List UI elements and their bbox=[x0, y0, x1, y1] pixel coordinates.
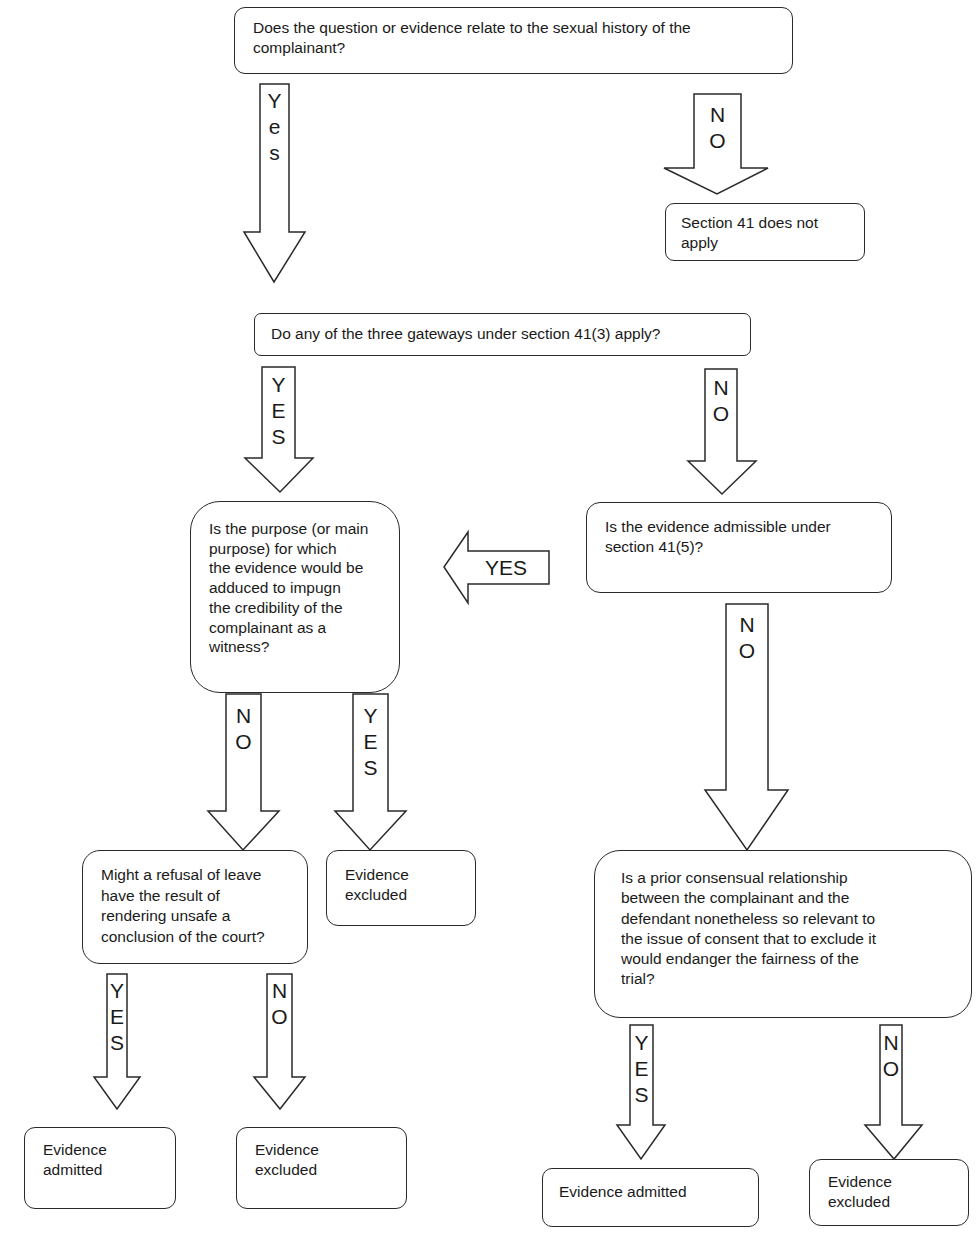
node-evidence-admitted-refusal: Evidence admitted bbox=[24, 1127, 176, 1209]
arrow-label-q5-no: N O bbox=[266, 978, 293, 1030]
node-evidence-excluded-refusal: Evidence excluded bbox=[236, 1127, 407, 1209]
arrow-label-q1-no: N O bbox=[694, 102, 741, 154]
node-text: Evidence excluded bbox=[345, 865, 457, 905]
node-text: Evidence admitted bbox=[559, 1182, 742, 1202]
node-text: Does the question or evidence relate to … bbox=[253, 18, 774, 58]
node-text: Evidence admitted bbox=[43, 1140, 157, 1180]
arrow-label-q3-no: N O bbox=[226, 703, 261, 755]
arrow-label-q6-no: N O bbox=[879, 1030, 903, 1082]
arrow-label-q3-yes: Y E S bbox=[353, 703, 388, 781]
node-text: Evidence excluded bbox=[828, 1172, 950, 1212]
node-admissible-41-5-question: Is the evidence admissible under section… bbox=[586, 502, 892, 593]
node-text: Is the evidence admissible under section… bbox=[605, 517, 873, 557]
arrow-layer bbox=[0, 0, 978, 1252]
node-text: Do any of the three gateways under secti… bbox=[271, 324, 734, 344]
arrow-label-q5-yes: Y E S bbox=[105, 978, 129, 1056]
arrow-label-q1-yes: Y e s bbox=[260, 88, 289, 166]
node-text: Is the purpose (or main purpose) for whi… bbox=[209, 519, 381, 657]
node-credibility-question: Is the purpose (or main purpose) for whi… bbox=[190, 501, 400, 693]
node-text: Might a refusal of leave have the result… bbox=[101, 865, 289, 947]
node-evidence-excluded-credibility: Evidence excluded bbox=[326, 850, 476, 926]
node-refusal-of-leave-question: Might a refusal of leave have the result… bbox=[82, 850, 308, 964]
node-evidence-admitted-relationship: Evidence admitted bbox=[542, 1168, 759, 1227]
node-gateways-question: Do any of the three gateways under secti… bbox=[254, 313, 751, 356]
node-text: Section 41 does not apply bbox=[681, 213, 849, 253]
node-text: Is a prior consensual relationship betwe… bbox=[621, 868, 971, 990]
node-prior-relationship-question: Is a prior consensual relationship betwe… bbox=[594, 850, 972, 1018]
arrow-label-q2-no: N O bbox=[705, 375, 737, 427]
node-sexual-history-question: Does the question or evidence relate to … bbox=[234, 7, 793, 74]
node-section41-not-apply: Section 41 does not apply bbox=[665, 203, 865, 261]
arrow-label-q6-yes: Y E S bbox=[629, 1030, 654, 1108]
node-text: Evidence excluded bbox=[255, 1140, 388, 1180]
node-evidence-excluded-relationship: Evidence excluded bbox=[809, 1159, 969, 1226]
arrow-label-q4-yes: YES bbox=[468, 555, 544, 581]
arrow-label-q2-yes: Y E S bbox=[262, 372, 295, 450]
arrow-label-q4-no: N O bbox=[726, 612, 768, 664]
